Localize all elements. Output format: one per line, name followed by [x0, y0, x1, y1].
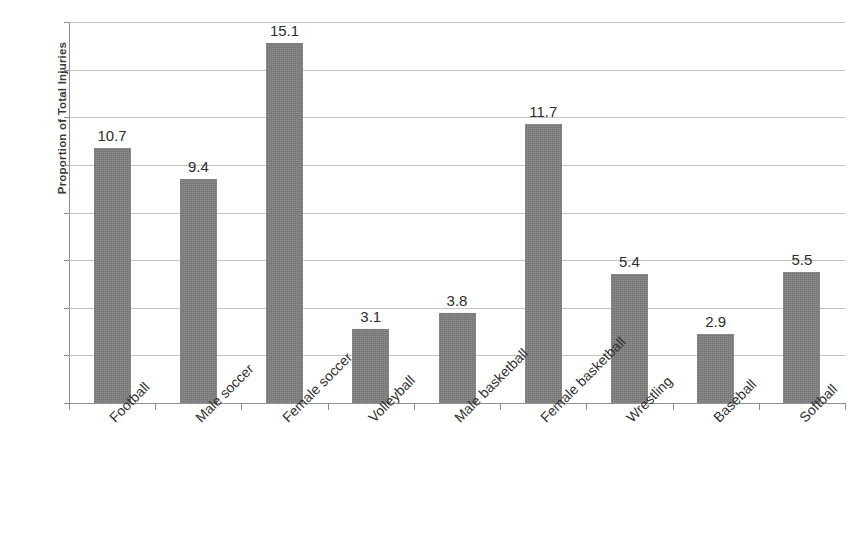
x-axis-tick-mark — [328, 403, 329, 410]
bar-value-label: 2.9 — [676, 314, 756, 329]
y-axis-tick-mark — [64, 355, 69, 356]
y-axis-title: Proportion of Total Injuries — [56, 0, 68, 268]
x-axis-tick-mark — [241, 403, 242, 410]
bar-value-label: 11.7 — [503, 104, 583, 119]
gridline — [69, 117, 845, 118]
x-axis-tick-mark — [845, 403, 846, 410]
bar — [266, 43, 303, 403]
y-axis-tick-mark — [64, 213, 69, 214]
bar-value-label: 3.1 — [331, 309, 411, 324]
bar — [352, 329, 389, 403]
y-axis-tick-mark — [64, 165, 69, 166]
y-axis-tick-mark — [64, 308, 69, 309]
bar-value-label: 5.5 — [762, 252, 842, 267]
bar-chart-figure: Proportion of Total Injuries 10.79.415.1… — [0, 0, 860, 555]
bar — [697, 334, 734, 403]
x-axis-tick-mark — [673, 403, 674, 410]
y-axis-tick-mark — [64, 22, 69, 23]
bar — [439, 313, 476, 403]
bar — [783, 272, 820, 403]
y-axis-tick-mark — [64, 70, 69, 71]
y-axis-tick-mark — [64, 117, 69, 118]
plot-area: 10.79.415.13.13.811.75.42.95.5 — [69, 22, 845, 403]
y-axis-tick-mark — [64, 260, 69, 261]
bar — [525, 124, 562, 403]
x-axis-tick-mark — [414, 403, 415, 410]
x-axis-tick-mark — [155, 403, 156, 410]
x-axis-tick-mark — [759, 403, 760, 410]
x-axis-tick-mark — [586, 403, 587, 410]
bar-value-label: 15.1 — [245, 23, 325, 38]
bar — [180, 179, 217, 403]
bar — [94, 148, 131, 403]
gridline — [69, 70, 845, 71]
bar-value-label: 3.8 — [417, 293, 497, 308]
bar-value-label: 10.7 — [72, 128, 152, 143]
x-axis-tick-mark — [500, 403, 501, 410]
gridline — [69, 22, 845, 23]
x-axis-origin-tick-mark — [69, 403, 70, 410]
bar-value-label: 5.4 — [589, 254, 669, 269]
bar-value-label: 9.4 — [158, 159, 238, 174]
